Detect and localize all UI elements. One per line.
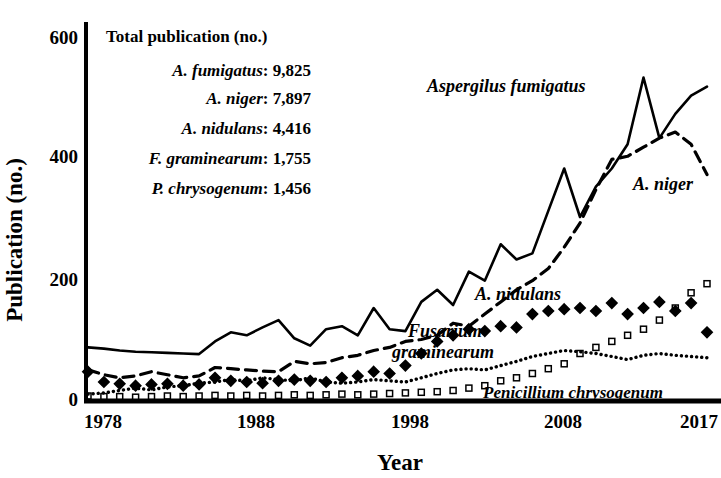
series-label-graminearum-line2: graminearum — [391, 342, 494, 362]
legend-row-nidulans: A. nidulans: 4,416 — [181, 119, 311, 138]
data-marker — [371, 391, 377, 397]
x-tick-1988: 1988 — [237, 411, 275, 432]
legend-species-chrysogenum: P. chrysogenum — [151, 179, 263, 198]
data-marker — [561, 361, 567, 367]
data-marker — [654, 297, 664, 307]
data-marker — [686, 298, 696, 308]
chart-canvas: 600 400 200 0 1978 1988 1998 2008 2017 P… — [0, 0, 721, 478]
legend-species-nidulans: A. nidulans — [181, 119, 264, 138]
legend-value-chrysogenum: 1,456 — [273, 179, 311, 198]
data-marker — [559, 304, 569, 314]
data-marker — [704, 281, 710, 287]
legend-sep-3: : — [263, 149, 273, 168]
data-marker — [339, 391, 345, 397]
data-marker — [607, 298, 617, 308]
data-marker — [641, 326, 647, 332]
y-tick-0: 0 — [69, 389, 79, 410]
legend-row-graminearum: F. graminearum: 1,755 — [148, 149, 311, 168]
data-marker — [291, 392, 297, 398]
legend-species-niger: A. niger — [205, 89, 263, 108]
data-marker — [355, 392, 361, 398]
data-marker — [212, 392, 218, 398]
data-marker — [146, 379, 156, 389]
legend-row-niger: A. niger: 7,897 — [205, 89, 311, 108]
data-marker — [496, 321, 506, 331]
legend-row-chrysogenum: P. chrysogenum: 1,456 — [151, 179, 311, 198]
data-marker — [466, 385, 472, 391]
data-marker — [656, 317, 662, 323]
x-tick-2008: 2008 — [544, 411, 582, 432]
data-marker — [434, 389, 440, 395]
data-marker — [260, 393, 266, 399]
series-label-chrysogenum: Penicillium chrysogenum — [482, 383, 663, 402]
legend-value-nidulans: 4,416 — [273, 119, 311, 138]
data-marker — [196, 393, 202, 399]
series-label-niger: A. niger — [632, 174, 694, 194]
legend-sep-0: : — [263, 61, 273, 80]
data-marker — [609, 338, 615, 344]
data-marker — [242, 377, 252, 387]
data-marker — [387, 391, 393, 397]
data-marker — [591, 306, 601, 316]
data-marker — [511, 322, 521, 332]
legend-sep-4: : — [263, 179, 273, 198]
series-label-fumigatus: Aspergilus fumigatus — [426, 76, 586, 96]
data-marker — [575, 303, 585, 313]
data-marker — [369, 367, 379, 377]
y-tick-200: 200 — [50, 269, 79, 290]
data-marker — [307, 392, 313, 398]
data-marker — [543, 306, 553, 316]
data-marker — [688, 290, 694, 296]
data-marker — [323, 392, 329, 398]
data-marker — [622, 309, 632, 319]
data-marker — [244, 392, 250, 398]
data-marker — [384, 368, 394, 378]
data-marker — [115, 379, 125, 389]
data-marker — [545, 366, 551, 372]
data-marker — [593, 344, 599, 350]
legend-value-fumigatus: 9,825 — [273, 61, 311, 80]
data-marker — [418, 389, 424, 395]
data-marker — [702, 327, 712, 337]
legend-value-niger: 7,897 — [273, 89, 312, 108]
legend-sep-1: : — [263, 89, 273, 108]
data-marker — [353, 371, 363, 381]
legend-box: Total publication (no.) A. fumigatus: 9,… — [106, 27, 312, 198]
data-marker — [164, 393, 170, 399]
data-marker — [527, 309, 537, 319]
y-tick-400: 400 — [50, 146, 79, 167]
data-marker — [625, 332, 631, 338]
data-marker — [514, 375, 520, 381]
publication-trend-chart: 600 400 200 0 1978 1988 1998 2008 2017 P… — [0, 0, 721, 478]
legend-species-graminearum: F. graminearum — [148, 149, 263, 168]
series-label-nidulans: A. nidulans — [474, 284, 561, 304]
data-marker — [638, 303, 648, 313]
legend-species-fumigatus: A. fumigatus — [171, 61, 263, 80]
legend-sep-2: : — [263, 119, 273, 138]
x-tick-2017: 2017 — [680, 411, 719, 432]
legend-value-graminearum: 1,755 — [273, 149, 311, 168]
x-tick-1998: 1998 — [391, 411, 429, 432]
data-marker — [276, 392, 282, 398]
x-axis-title: Year — [377, 450, 423, 475]
x-tick-1978: 1978 — [84, 411, 122, 432]
data-marker — [450, 388, 456, 394]
data-marker — [99, 377, 109, 387]
data-marker — [228, 393, 234, 399]
y-tick-600: 600 — [50, 27, 79, 48]
series-label-graminearum-line1: Fusarium — [407, 321, 482, 341]
data-marker — [529, 371, 535, 377]
data-marker — [402, 390, 408, 396]
y-axis-title: Publication (no.) — [2, 158, 27, 322]
legend-row-fumigatus: A. fumigatus: 9,825 — [171, 61, 311, 80]
legend-title: Total publication (no.) — [106, 27, 267, 46]
